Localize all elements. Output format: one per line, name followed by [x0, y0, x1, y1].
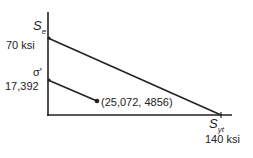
- sigma-tick: [47, 78, 50, 81]
- point-label: (25,072, 4856): [101, 96, 173, 108]
- se-tick: [47, 36, 50, 39]
- se-value: 70 ksi: [6, 39, 35, 51]
- sigma-prime-value: 17,392: [5, 80, 39, 92]
- load-line: [48, 80, 97, 101]
- operating-point: [95, 99, 100, 104]
- sigma-prime-label: σ′: [33, 66, 42, 78]
- se-label: Se: [33, 20, 46, 38]
- syt-value: 140 ksi: [205, 133, 240, 145]
